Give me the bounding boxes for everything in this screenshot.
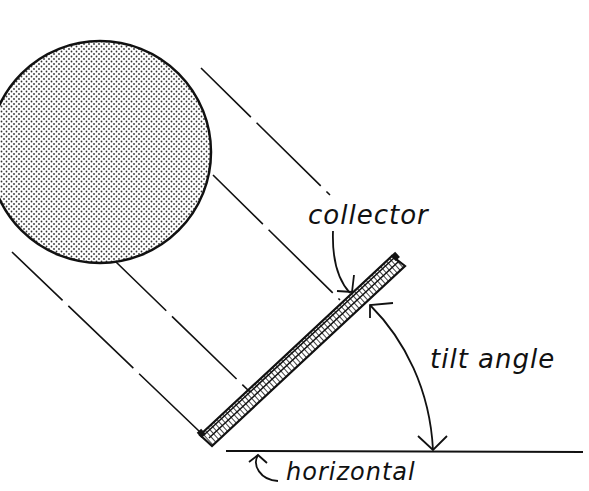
collector-label: collector [308,200,429,230]
collector-pointer-arrow [333,231,354,293]
tilt-angle-arc [370,303,447,450]
solar-collector-diagram [0,0,589,491]
horizontal-line [226,451,583,452]
horizontal-pointer-arrow [249,455,278,481]
collector-panel [197,252,405,446]
horizontal-label: horizontal [286,458,416,486]
tilt-angle-label: tilt angle [430,344,555,374]
sun-icon [0,41,211,263]
